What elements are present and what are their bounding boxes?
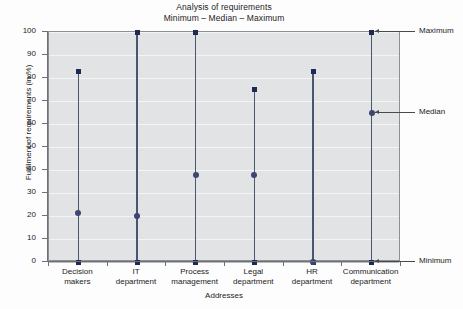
maximum-marker	[135, 30, 140, 35]
gridline	[49, 32, 399, 33]
maximum-marker	[252, 87, 257, 92]
y-axis-tick-label: 80	[0, 73, 36, 81]
median-marker	[193, 172, 199, 178]
maximum-marker	[369, 30, 374, 35]
x-axis-tick	[107, 262, 108, 266]
y-axis-tick-label: 10	[0, 234, 36, 242]
x-axis-tick	[400, 262, 401, 266]
median-marker	[75, 210, 81, 216]
maximum-marker	[193, 30, 198, 35]
category-label-line: Communication	[335, 267, 407, 277]
plot-area	[48, 31, 400, 261]
x-axis-tick	[283, 262, 284, 266]
median-marker	[251, 172, 257, 178]
range-line	[78, 71, 79, 262]
x-axis-tick	[165, 262, 166, 266]
gridline	[49, 170, 399, 171]
range-line	[136, 32, 137, 262]
annotation-label: Maximum	[419, 27, 454, 35]
range-line	[371, 32, 372, 262]
x-axis-title: Addresses	[48, 291, 400, 300]
y-axis-tick-label: 20	[0, 211, 36, 219]
annotation-label: Minimum	[419, 257, 451, 265]
y-axis-tick-label: 0	[0, 257, 36, 265]
category-label-line: department	[335, 277, 407, 287]
annotation-leader-line	[375, 112, 415, 113]
y-axis-tick-label: 40	[0, 165, 36, 173]
y-axis-tick-label: 90	[0, 50, 36, 58]
chart-title-main: Analysis of requirements	[48, 2, 400, 13]
gridline	[49, 55, 399, 56]
annotation-arrow-icon	[375, 110, 379, 114]
maximum-marker	[311, 69, 316, 74]
y-axis-tick-label: 30	[0, 188, 36, 196]
chart-container: Analysis of requirements Minimum – Media…	[0, 0, 463, 309]
y-axis-tick-label: 70	[0, 96, 36, 104]
y-axis-tick-label: 50	[0, 142, 36, 150]
y-axis-tick-label: 100	[0, 27, 36, 35]
range-line	[312, 71, 313, 262]
gridline	[49, 124, 399, 125]
gridline	[49, 239, 399, 240]
x-axis-tick	[341, 262, 342, 266]
maximum-marker	[76, 69, 81, 74]
x-axis-tick	[48, 262, 49, 266]
annotation-arrow-icon	[375, 259, 379, 263]
x-axis-tick	[224, 262, 225, 266]
median-marker	[134, 213, 140, 219]
annotation-leader-line	[375, 31, 415, 32]
annotation-arrow-icon	[375, 29, 379, 33]
median-marker	[310, 259, 316, 265]
annotation-label: Median	[419, 108, 445, 116]
gridline	[49, 147, 399, 148]
chart-title: Analysis of requirements Minimum – Media…	[48, 2, 400, 23]
annotation-leader-line	[375, 261, 415, 262]
gridline	[49, 101, 399, 102]
y-axis-tick-label: 60	[0, 119, 36, 127]
chart-title-subtitle: Minimum – Median – Maximum	[48, 13, 400, 24]
gridline	[49, 193, 399, 194]
x-axis-category-label: Communicationdepartment	[335, 267, 407, 286]
range-line	[195, 32, 196, 262]
gridline	[49, 78, 399, 79]
gridline	[49, 216, 399, 217]
